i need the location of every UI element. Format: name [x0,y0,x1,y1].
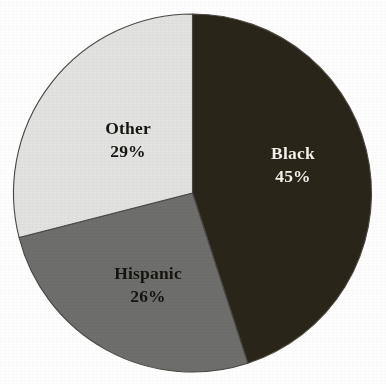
pie-label-other-value: 29% [70,140,186,163]
pie-label-hispanic-name: Hispanic [80,262,216,285]
pie-label-hispanic-value: 26% [80,285,216,308]
pie-label-black: Black 45% [235,142,351,188]
pie-chart-svg [0,0,386,384]
pie-label-black-value: 45% [235,165,351,188]
pie-label-other: Other 29% [70,117,186,163]
pie-label-hispanic: Hispanic 26% [80,262,216,308]
pie-label-black-name: Black [235,142,351,165]
pie-label-other-name: Other [70,117,186,140]
pie-chart-figure: Black 45% Other 29% Hispanic 26% [0,0,386,384]
